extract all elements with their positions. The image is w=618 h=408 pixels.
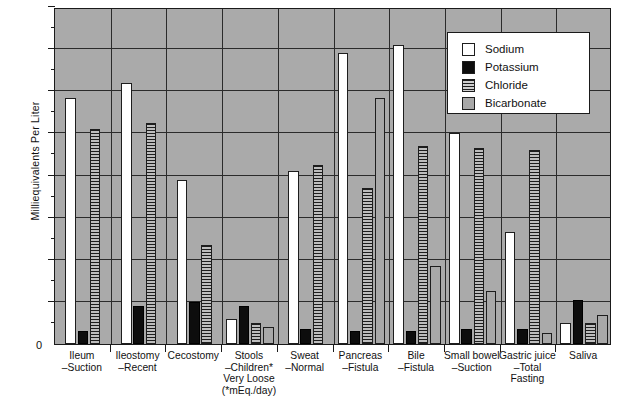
group-separator	[278, 9, 279, 344]
legend-swatch-chloride	[462, 79, 475, 92]
bar-sodium	[505, 232, 516, 344]
gridline-horizontal	[55, 132, 610, 133]
bar-potassium	[78, 331, 89, 344]
bar-potassium	[133, 306, 144, 344]
y-axis-tick	[48, 175, 55, 176]
gridline-horizontal	[55, 301, 610, 302]
y-axis-tick	[48, 6, 55, 7]
group-separator	[334, 9, 335, 344]
y-axis-tick	[48, 90, 55, 91]
legend-item: Bicarbonate	[462, 94, 589, 112]
legend-item: Sodium	[462, 40, 589, 58]
y-axis-minor-tick	[51, 196, 55, 197]
legend-swatch-potassium	[462, 61, 475, 74]
bar-chloride	[418, 146, 429, 344]
y-axis-minor-tick	[51, 27, 55, 28]
group-separator	[445, 9, 446, 344]
bar-potassium	[461, 329, 472, 344]
group-separator	[111, 9, 112, 344]
y-axis-tick	[48, 48, 55, 49]
y-axis-tick	[48, 132, 55, 133]
legend-label-chloride: Chloride	[485, 79, 528, 91]
chart-legend: Sodium Potassium Chloride Bicarbonate	[447, 32, 590, 114]
bar-sodium	[177, 180, 188, 344]
x-axis-category-label: Saliva	[541, 350, 618, 362]
bar-chloride	[529, 150, 540, 344]
group-separator	[166, 9, 167, 344]
legend-label-potassium: Potassium	[485, 61, 539, 73]
bar-chloride	[362, 188, 373, 344]
legend-item: Chloride	[462, 76, 589, 94]
bar-sodium	[393, 45, 404, 344]
bar-potassium	[300, 329, 311, 344]
gridline-horizontal	[55, 259, 610, 260]
y-axis-tick	[48, 301, 55, 302]
bar-chloride	[90, 129, 101, 344]
y-axis-minor-tick	[51, 238, 55, 239]
bar-chart-figure: Milliequivalents Per Liter 0 Sodium Pota…	[0, 0, 618, 408]
gridline-horizontal	[55, 217, 610, 218]
bar-chloride	[585, 323, 596, 344]
group-separator	[389, 9, 390, 344]
bar-potassium	[189, 302, 200, 344]
bar-chloride	[313, 165, 324, 344]
bar-sodium	[121, 83, 132, 344]
legend-swatch-bicarbonate	[462, 97, 475, 110]
bar-sodium	[449, 133, 460, 344]
y-axis-tick	[48, 217, 55, 218]
gridline-horizontal	[55, 175, 610, 176]
y-axis-minor-tick	[51, 69, 55, 70]
bar-bicarbonate	[430, 266, 441, 344]
y-axis-title: Milliequivalents Per Liter	[29, 56, 41, 266]
bar-bicarbonate	[597, 315, 608, 344]
bar-sodium	[560, 323, 571, 344]
bar-chloride	[474, 148, 485, 344]
bar-chloride	[201, 245, 212, 344]
bar-potassium	[406, 331, 417, 344]
bar-potassium	[573, 300, 584, 344]
legend-label-sodium: Sodium	[485, 43, 524, 55]
bar-sodium	[338, 53, 349, 344]
bar-bicarbonate	[263, 327, 274, 344]
bar-chloride	[146, 123, 157, 344]
y-axis-tick	[48, 259, 55, 260]
group-separator	[222, 9, 223, 344]
y-axis-minor-tick	[51, 111, 55, 112]
y-axis-minor-tick	[51, 280, 55, 281]
bar-potassium	[239, 306, 250, 344]
legend-swatch-sodium	[462, 43, 475, 56]
bar-bicarbonate	[542, 333, 553, 344]
bar-chloride	[251, 323, 262, 344]
legend-item: Potassium	[462, 58, 589, 76]
bar-potassium	[350, 331, 361, 344]
bar-sodium	[288, 171, 299, 344]
y-axis-minor-tick	[51, 322, 55, 323]
legend-label-bicarbonate: Bicarbonate	[485, 97, 546, 109]
y-axis-minor-tick	[51, 153, 55, 154]
bar-bicarbonate	[375, 98, 386, 344]
bar-sodium	[65, 98, 76, 344]
bar-sodium	[226, 319, 237, 344]
bar-bicarbonate	[486, 291, 497, 344]
bar-potassium	[517, 329, 528, 344]
